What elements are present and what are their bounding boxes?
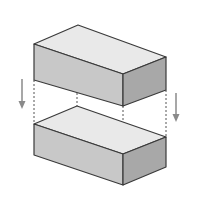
upper-box [34,25,166,106]
arrowhead-icon [173,114,180,122]
diagram-canvas [0,0,197,204]
left-down-arrow [19,79,26,109]
right-down-arrow [173,93,180,122]
lower-box [34,106,166,185]
arrowhead-icon [19,101,26,109]
